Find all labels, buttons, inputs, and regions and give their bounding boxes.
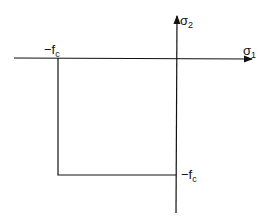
axis-subscript: 2 [188, 20, 193, 30]
label-text: −f [181, 167, 192, 182]
axis-symbol: σ [180, 13, 188, 28]
yield-square [58, 58, 176, 175]
axis-subscript: 1 [251, 50, 256, 60]
diagram-canvas [0, 0, 267, 223]
axis-symbol: σ [243, 43, 251, 58]
sigma2-axis [176, 16, 177, 213]
bottom-fc-label: −fc [181, 168, 197, 184]
sigma1-label: σ1 [243, 44, 256, 60]
label-subscript: c [192, 174, 197, 184]
label-subscript: c [55, 49, 60, 59]
left-fc-label: −fc [44, 43, 60, 59]
sigma2-label: σ2 [180, 14, 193, 30]
label-text: −f [44, 42, 55, 57]
